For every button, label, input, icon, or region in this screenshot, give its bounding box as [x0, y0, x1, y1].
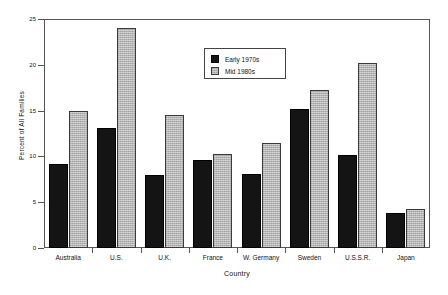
y-tick — [38, 248, 44, 249]
x-tick — [382, 248, 383, 253]
y-axis-title: Percent of All Families — [18, 61, 25, 191]
legend-swatch-early-1970s — [211, 55, 219, 63]
x-tick — [334, 248, 335, 253]
x-tick — [189, 248, 190, 253]
x-tick-label: France — [189, 254, 237, 261]
bar — [338, 155, 357, 248]
x-tick-label: U.S. — [92, 254, 140, 261]
bar — [262, 143, 281, 248]
legend-item-mid-1980s: Mid 1980s — [211, 66, 255, 76]
x-tick-label: Japan — [382, 254, 430, 261]
x-tick-label: U.S.S.R. — [334, 254, 382, 261]
legend-swatch-mid-1980s — [211, 67, 219, 75]
bar-chart: Percent of All Families 0510152025 Austr… — [0, 0, 448, 295]
y-tick-label: 0 — [12, 245, 36, 251]
bar — [49, 164, 68, 248]
y-tick — [38, 19, 44, 20]
y-tick — [38, 111, 44, 112]
y-tick — [38, 202, 44, 203]
x-tick — [92, 248, 93, 253]
bar — [242, 174, 261, 248]
x-tick — [237, 248, 238, 253]
y-tick-label: 15 — [12, 108, 36, 114]
bar — [145, 175, 164, 248]
y-tick-label: 10 — [12, 153, 36, 159]
bar — [358, 63, 377, 248]
chart-legend: Early 1970s Mid 1980s — [204, 48, 286, 79]
bar — [97, 128, 116, 248]
x-tick-label: Australia — [44, 254, 92, 261]
x-tick — [285, 248, 286, 253]
bar — [213, 154, 232, 248]
bar — [117, 28, 136, 248]
x-tick-label: U.K. — [141, 254, 189, 261]
bar — [290, 109, 309, 248]
legend-label-early-1970s: Early 1970s — [225, 56, 259, 63]
y-tick — [38, 65, 44, 66]
y-tick-label: 20 — [12, 62, 36, 68]
y-tick — [38, 156, 44, 157]
bar — [165, 115, 184, 248]
legend-label-mid-1980s: Mid 1980s — [225, 68, 255, 75]
x-tick — [141, 248, 142, 253]
bar — [386, 213, 405, 248]
x-axis-title: Country — [44, 270, 430, 277]
bar — [69, 111, 88, 248]
y-tick-label: 25 — [12, 16, 36, 22]
bar — [310, 90, 329, 248]
y-tick-label: 5 — [12, 199, 36, 205]
x-tick-label: W. Germany — [237, 254, 285, 261]
bar — [193, 160, 212, 248]
bar — [406, 209, 425, 248]
x-tick-label: Sweden — [285, 254, 333, 261]
legend-item-early-1970s: Early 1970s — [211, 54, 259, 64]
